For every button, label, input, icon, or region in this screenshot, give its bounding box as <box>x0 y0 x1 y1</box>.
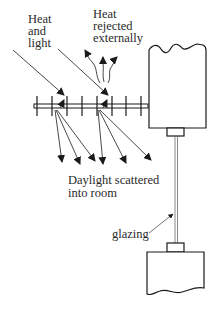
label-heat-and-light-line-3: light <box>28 37 52 49</box>
scattered-daylight-rays <box>55 110 151 164</box>
label-heat-rejected: Heat rejected externally <box>93 8 143 44</box>
louvre-grating <box>34 96 148 116</box>
label-daylight-line-2: into room <box>68 187 159 200</box>
lower-wall-section <box>147 243 204 295</box>
label-heat-rejected-line-3: externally <box>93 32 143 44</box>
incoming-light-rays <box>13 49 108 95</box>
diagram-canvas: Heat and light Heat rejected externally … <box>0 0 218 313</box>
glazing-pane <box>175 136 178 252</box>
label-glazing: glazing <box>112 228 149 240</box>
upper-wall-section <box>149 44 206 136</box>
label-heat-and-light: Heat and light <box>28 13 52 49</box>
glazing-pointer-arrow <box>149 214 173 233</box>
label-glazing-text: glazing <box>112 228 149 240</box>
label-daylight-scattered: Daylight scattered into room <box>68 174 159 200</box>
